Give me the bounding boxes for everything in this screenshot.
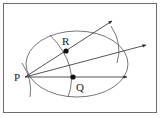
construction-diagram: P R Q xyxy=(0,0,160,117)
label-q: Q xyxy=(76,81,84,93)
point-r xyxy=(63,48,68,53)
label-r: R xyxy=(62,35,70,47)
point-q xyxy=(70,74,75,79)
label-p: P xyxy=(14,71,20,83)
ray-through-r xyxy=(25,21,112,77)
